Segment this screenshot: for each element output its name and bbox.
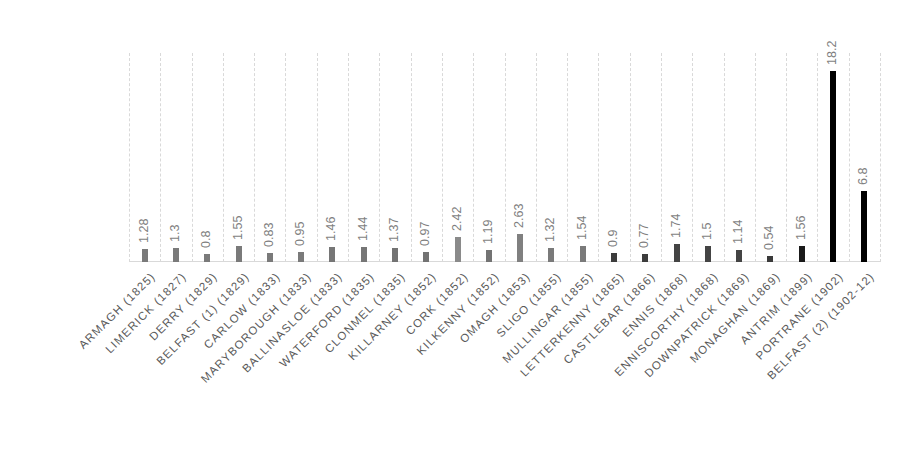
gridline: [223, 53, 224, 262]
data-label: 0.8: [199, 230, 213, 247]
data-label: 1.28: [137, 218, 151, 242]
data-label: 1.44: [356, 217, 370, 241]
bar: [361, 247, 367, 262]
data-label: 1.32: [543, 218, 557, 242]
data-label: 0.97: [418, 221, 432, 245]
bar: [298, 252, 304, 262]
bar: [392, 248, 398, 262]
bar: [329, 247, 335, 262]
data-label: 0.83: [262, 223, 276, 247]
gridline: [598, 53, 599, 262]
data-label: 1.3: [168, 225, 182, 242]
bar: [611, 253, 617, 262]
data-label: 0.9: [606, 229, 620, 246]
data-label: 1.55: [231, 215, 245, 239]
gridline: [786, 53, 787, 262]
data-label: 2.63: [512, 204, 526, 228]
gridline: [192, 53, 193, 262]
bar: [236, 246, 242, 262]
gridline: [567, 53, 568, 262]
bar: [830, 71, 836, 262]
gridline: [630, 53, 631, 262]
bar: [486, 250, 492, 262]
gridline: [129, 53, 130, 262]
bar: [517, 234, 523, 262]
bar: [204, 254, 210, 262]
gridline: [536, 53, 537, 262]
gridline: [317, 53, 318, 262]
gridline: [817, 53, 818, 262]
gridline: [505, 53, 506, 262]
data-label: 1.46: [324, 216, 338, 240]
gridline: [473, 53, 474, 262]
bar: [548, 248, 554, 262]
data-label: 1.56: [794, 215, 808, 239]
bar: [455, 237, 461, 262]
data-label: 0.77: [637, 224, 651, 248]
data-label: 1.5: [700, 223, 714, 240]
x-tick-label: PORTRANE (1902): [696, 270, 846, 420]
x-tick-label: BELFAST (2) (1902-12): [727, 270, 877, 420]
bar: [674, 244, 680, 262]
gridline: [285, 53, 286, 262]
gridline: [348, 53, 349, 262]
gridline: [254, 53, 255, 262]
plot-area: 1.281.30.81.550.830.951.461.441.370.972.…: [129, 53, 880, 262]
gridline: [755, 53, 756, 262]
data-label: 2.42: [450, 206, 464, 230]
bar: [423, 252, 429, 262]
data-label: 18.2: [825, 41, 839, 65]
data-label: 6.8: [856, 167, 870, 184]
gridline: [160, 53, 161, 262]
x-tick-label: LIMERICK (1827): [39, 270, 189, 420]
data-label: 1.54: [575, 215, 589, 239]
data-label: 1.19: [481, 219, 495, 243]
bar: [705, 246, 711, 262]
data-label: 0.95: [293, 222, 307, 246]
gridline: [661, 53, 662, 262]
bar: [799, 246, 805, 262]
gridline: [692, 53, 693, 262]
gridline: [442, 53, 443, 262]
bar: [736, 250, 742, 262]
bar: [173, 248, 179, 262]
data-label: 1.14: [731, 220, 745, 244]
bar: [861, 191, 867, 262]
gridline: [880, 53, 881, 262]
gridline: [849, 53, 850, 262]
bar-chart: 1.281.30.81.550.830.951.461.441.370.972.…: [0, 0, 921, 456]
gridline: [411, 53, 412, 262]
data-label: 1.74: [669, 213, 683, 237]
data-label: 0.54: [762, 226, 776, 250]
bar: [580, 246, 586, 262]
bar: [642, 254, 648, 262]
bar: [267, 253, 273, 262]
gridline: [724, 53, 725, 262]
x-tick-label: LETTERKENNY (1865): [477, 270, 627, 420]
data-label: 1.37: [387, 217, 401, 241]
gridline: [379, 53, 380, 262]
bar: [767, 256, 773, 262]
bar: [142, 249, 148, 262]
x-tick-label: CLONMEL (1835): [258, 270, 408, 420]
